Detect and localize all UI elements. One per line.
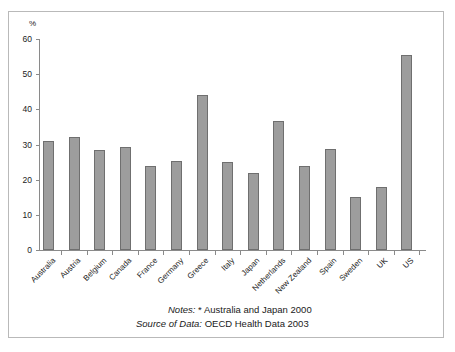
y-tick: [36, 180, 40, 181]
x-tick: [189, 251, 190, 255]
bar-chart: % 6050403020100 AustraliaAustriaBelgiumC…: [0, 0, 455, 352]
notes-text: * Australia and Japan 2000: [198, 304, 312, 315]
y-tick: [36, 145, 40, 146]
y-tick: [36, 250, 40, 251]
x-tick: [240, 251, 241, 255]
x-tick: [343, 251, 344, 255]
y-axis-unit-label: %: [29, 19, 36, 28]
bar: [120, 147, 131, 250]
y-tick-label: 60: [12, 35, 32, 43]
x-tick: [215, 251, 216, 255]
source-line: Source of Data: OECD Health Data 2003: [136, 318, 309, 329]
notes-line: Notes: * Australia and Japan 2000: [168, 304, 312, 315]
bar: [325, 149, 336, 250]
source-label: Source of Data:: [136, 318, 202, 329]
bar: [401, 55, 412, 250]
source-text: OECD Health Data 2003: [205, 318, 309, 329]
bar: [145, 166, 156, 250]
x-tick: [317, 251, 318, 255]
bar: [248, 173, 259, 250]
bar: [69, 137, 80, 250]
x-tick: [163, 251, 164, 255]
bar: [94, 150, 105, 250]
y-tick-label: 0: [12, 246, 32, 254]
y-tick-label: 20: [12, 176, 32, 184]
y-tick: [36, 215, 40, 216]
x-tick: [394, 251, 395, 255]
bar: [376, 187, 387, 250]
bar: [171, 161, 182, 250]
x-tick: [419, 251, 420, 255]
x-tick: [61, 251, 62, 255]
y-tick-label: 30: [12, 141, 32, 149]
x-tick: [138, 251, 139, 255]
y-tick: [36, 109, 40, 110]
bar: [222, 162, 233, 250]
bar: [43, 141, 54, 250]
x-tick: [87, 251, 88, 255]
x-tick: [368, 251, 369, 255]
bar: [299, 166, 310, 250]
bar: [273, 121, 284, 250]
bar: [350, 197, 361, 250]
y-tick: [36, 39, 40, 40]
y-tick-label: 50: [12, 70, 32, 78]
x-tick: [266, 251, 267, 255]
y-tick: [36, 74, 40, 75]
notes-label: Notes:: [168, 304, 195, 315]
y-tick-label: 10: [12, 211, 32, 219]
bar: [197, 95, 208, 250]
x-tick: [112, 251, 113, 255]
y-tick-label: 40: [12, 105, 32, 113]
x-tick: [291, 251, 292, 255]
